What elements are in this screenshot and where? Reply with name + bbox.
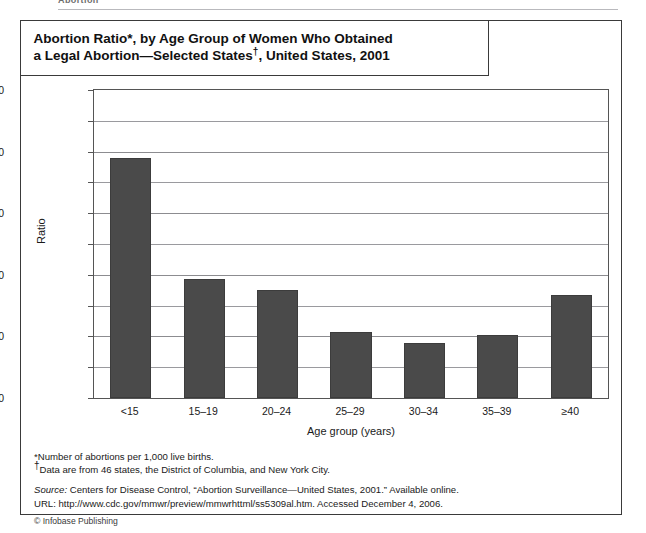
gridline-major — [94, 213, 608, 214]
bar — [257, 290, 298, 398]
figure-notes: *Number of abortions per 1,000 live birt… — [34, 450, 609, 526]
y-axis-tick-label: 200 — [0, 330, 4, 342]
bar — [330, 332, 371, 398]
source-label: Source: — [34, 484, 67, 495]
footnote-dagger-text: Data are from 46 states, the District of… — [40, 464, 330, 475]
gridline-minor — [94, 182, 608, 183]
y-tick-minor — [88, 306, 94, 307]
y-axis-tick-label: 400 — [0, 269, 4, 281]
gridline-minor — [94, 121, 608, 122]
bar — [184, 279, 225, 398]
y-tick-major — [88, 398, 94, 399]
x-axis-tick-label: <15 — [121, 405, 139, 417]
source-line: Source: Centers for Disease Control, “Ab… — [34, 483, 609, 496]
y-tick-major — [88, 275, 94, 276]
y-tick-major — [88, 152, 94, 153]
bar — [477, 335, 518, 398]
source-url-line: URL: http://www.cdc.gov/mmwr/preview/mmw… — [34, 497, 609, 510]
x-axis-tick-label: 30–34 — [409, 405, 438, 417]
y-axis-tick-label: 800 — [0, 146, 4, 158]
x-axis-tick-label: ≥40 — [562, 405, 579, 417]
y-tick-major — [88, 90, 94, 91]
y-tick-minor — [88, 182, 94, 183]
y-tick-minor — [88, 121, 94, 122]
y-tick-major — [88, 213, 94, 214]
gridline-minor — [94, 306, 608, 307]
figure-title-box: Abortion Ratio*, by Age Group of Women W… — [20, 20, 489, 77]
y-tick-minor — [88, 367, 94, 368]
y-axis-tick-label: 0 — [0, 392, 4, 404]
x-axis-tick-label: 20–24 — [262, 405, 291, 417]
y-axis-tick-label: 1000 — [0, 84, 4, 96]
y-tick-minor — [88, 244, 94, 245]
footnote-dagger: †Data are from 46 states, the District o… — [34, 463, 609, 476]
running-head-text: Abortion — [58, 0, 99, 5]
x-axis-tick-label: 15–19 — [189, 405, 218, 417]
chart-area: Ratio 02004006008001000 Age group (years… — [21, 21, 623, 516]
bar — [404, 343, 445, 398]
x-axis-title: Age group (years) — [93, 425, 609, 437]
gridline-major — [94, 275, 608, 276]
source-text: Centers for Disease Control, “Abortion S… — [67, 484, 459, 495]
y-tick-major — [88, 336, 94, 337]
source-block: Source: Centers for Disease Control, “Ab… — [34, 483, 609, 509]
y-axis-tick-label: 600 — [0, 207, 4, 219]
figure-title-line-1: Abortion Ratio*, by Age Group of Women W… — [34, 30, 476, 48]
header-rule — [58, 9, 618, 10]
figure-title-line-2: a Legal Abortion—Selected States†, Unite… — [34, 47, 476, 65]
x-axis-tick-label: 25–29 — [335, 405, 364, 417]
bar — [110, 158, 151, 398]
gridline-major — [94, 152, 608, 153]
x-axis-tick-label: 35–39 — [482, 405, 511, 417]
plot-frame: 02004006008001000 — [93, 89, 609, 399]
figure-title-line-2-tail: , United States, 2001 — [258, 48, 389, 63]
figure-card: Ratio 02004006008001000 Age group (years… — [20, 20, 622, 515]
gridline-minor — [94, 244, 608, 245]
page-header: Abortion — [0, 0, 646, 14]
y-axis-title: Ratio — [35, 218, 47, 244]
figure-title-line-2-text: a Legal Abortion—Selected States — [34, 48, 253, 63]
bar — [551, 295, 592, 398]
footnote-asterisk: *Number of abortions per 1,000 live birt… — [34, 450, 609, 463]
copyright-line: © Infobase Publishing — [34, 516, 609, 526]
